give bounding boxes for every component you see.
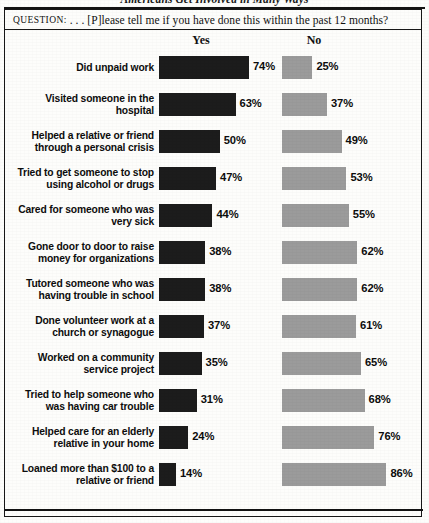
- category-label-line: Done volunteer work at a: [35, 315, 154, 327]
- category-label: Cared for someone who wasvery sick: [6, 198, 154, 234]
- bar-value-yes: 50%: [224, 134, 246, 146]
- category-label-line: Visited someone in the: [45, 93, 154, 105]
- bar-value-no: 62%: [361, 282, 383, 294]
- bar-yes: [159, 315, 204, 338]
- bar-value-yes: 38%: [209, 245, 231, 257]
- category-label-line: Gone door to door to raise: [28, 241, 154, 253]
- category-label-line: Worked on a community: [38, 352, 154, 364]
- question-text: . . . [P]lease tell me if you have done …: [70, 14, 388, 26]
- bar-value-yes: 47%: [220, 171, 242, 183]
- bar-yes: [159, 56, 249, 79]
- bar-yes: [159, 241, 205, 264]
- bar-value-yes: 31%: [201, 393, 223, 405]
- chart-row: Cared for someone who wasvery sick44%55%: [0, 198, 418, 234]
- chart-row: Worked on a communityservice project35%6…: [0, 346, 418, 382]
- chart-row: Tried to get someone to stopusing alcoho…: [0, 161, 418, 197]
- bar-yes: [159, 130, 220, 153]
- chart-row: Loaned more than $100 to arelative or fr…: [0, 457, 418, 493]
- bottom-divider: [5, 509, 423, 511]
- bar-yes: [159, 463, 176, 486]
- category-label-line: Loaned more than $100 to a: [22, 463, 154, 475]
- category-label-line: hospital: [116, 105, 154, 117]
- bar-value-yes: 14%: [180, 467, 202, 479]
- bar-value-yes: 44%: [216, 208, 238, 220]
- bar-value-no: 61%: [360, 319, 382, 331]
- category-label-line: Tutored someone who was: [26, 278, 154, 290]
- bar-no: [282, 278, 357, 301]
- question-banner: Question: . . . [P]lease tell me if you …: [5, 10, 421, 30]
- chart-row: Helped care for an elderlyrelative in yo…: [0, 420, 418, 456]
- category-label-line: Tried to get someone to stop: [17, 167, 154, 179]
- bar-no: [282, 130, 342, 153]
- bar-no: [282, 352, 361, 375]
- bar-value-no: 76%: [378, 430, 400, 442]
- category-label-line: relative or friend: [76, 475, 154, 487]
- bar-no: [282, 315, 356, 338]
- bar-yes: [159, 426, 188, 449]
- bar-value-yes: 35%: [206, 356, 228, 368]
- bar-no: [282, 56, 312, 79]
- bar-no: [282, 93, 327, 116]
- bar-value-no: 86%: [390, 467, 412, 479]
- chart-row: Gone door to door to raisemoney for orga…: [0, 235, 418, 271]
- chart-row: Done volunteer work at achurch or synago…: [0, 309, 418, 345]
- bar-no: [282, 389, 365, 412]
- bar-value-no: 68%: [369, 393, 391, 405]
- category-label: Helped a relative or friendthrough a per…: [6, 124, 154, 160]
- bar-no: [282, 241, 357, 264]
- bar-value-no: 65%: [365, 356, 387, 368]
- category-label-line: was having car trouble: [46, 401, 154, 413]
- category-label: Helped care for an elderlyrelative in yo…: [6, 420, 154, 456]
- category-label-line: Did unpaid work: [76, 62, 154, 74]
- chart-row: Tutored someone who washaving trouble in…: [0, 272, 418, 308]
- bar-value-no: 49%: [346, 134, 368, 146]
- category-label-line: Tried to help someone who: [25, 389, 154, 401]
- bar-yes: [159, 278, 205, 301]
- category-label-line: service project: [84, 364, 154, 376]
- bar-value-yes: 63%: [240, 97, 262, 109]
- category-label-line: church or synagogue: [52, 327, 154, 339]
- category-label: Tried to get someone to stopusing alcoho…: [6, 161, 154, 197]
- chart-row: Did unpaid work74%25%: [0, 50, 418, 86]
- bar-value-no: 37%: [331, 97, 353, 109]
- category-label: Loaned more than $100 to arelative or fr…: [6, 457, 154, 493]
- bar-value-yes: 38%: [209, 282, 231, 294]
- question-label: Question:: [13, 15, 67, 25]
- category-label: Worked on a communityservice project: [6, 346, 154, 382]
- chart-row: Helped a relative or friendthrough a per…: [0, 124, 418, 160]
- category-label-line: using alcohol or drugs: [46, 179, 154, 191]
- bar-chart-plot: Did unpaid work74%25%Visited someone in …: [0, 50, 418, 510]
- category-label-line: relative in your home: [54, 438, 154, 450]
- bar-value-yes: 24%: [192, 430, 214, 442]
- category-label: Done volunteer work at achurch or synago…: [6, 309, 154, 345]
- bar-yes: [159, 167, 216, 190]
- category-label-line: very sick: [111, 216, 154, 228]
- category-label-line: Cared for someone who was: [18, 204, 154, 216]
- bar-no: [282, 426, 374, 449]
- category-label-line: having trouble in school: [39, 290, 154, 302]
- column-header-yes: Yes: [176, 33, 226, 48]
- category-label: Gone door to door to raisemoney for orga…: [6, 235, 154, 271]
- bar-value-no: 62%: [361, 245, 383, 257]
- category-label: Did unpaid work: [6, 50, 154, 86]
- bar-value-no: 55%: [353, 208, 375, 220]
- category-label-line: Helped care for an elderly: [32, 426, 154, 438]
- bar-value-no: 25%: [316, 60, 338, 72]
- category-label-line: money for organizations: [38, 253, 154, 265]
- bar-value-yes: 74%: [253, 60, 275, 72]
- bar-no: [282, 167, 346, 190]
- bar-yes: [159, 352, 202, 375]
- bar-yes: [159, 93, 236, 116]
- category-label: Tutored someone who washaving trouble in…: [6, 272, 154, 308]
- bar-yes: [159, 204, 212, 227]
- bar-value-no: 53%: [350, 171, 372, 183]
- category-label: Tried to help someone whowas having car …: [6, 383, 154, 419]
- bar-no: [282, 463, 386, 486]
- column-header-no: No: [289, 33, 339, 48]
- bar-no: [282, 204, 349, 227]
- chart-row: Visited someone in thehospital63%37%: [0, 87, 418, 123]
- figure-container: Americans Get Involved in Many Ways Ques…: [0, 0, 429, 523]
- category-label-line: through a personal crisis: [35, 142, 154, 154]
- bar-value-yes: 37%: [208, 319, 230, 331]
- bar-yes: [159, 389, 197, 412]
